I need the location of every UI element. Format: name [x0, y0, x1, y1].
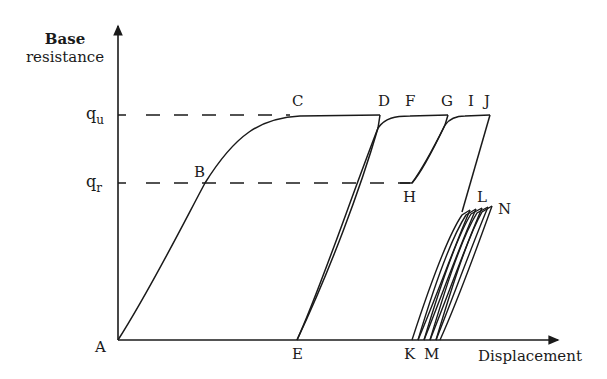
- curve-G-to-H: [400, 115, 448, 183]
- point-A-label: A: [94, 338, 106, 356]
- cyclic-loops: [412, 206, 492, 340]
- curve-D-to-E: [297, 115, 380, 340]
- point-L-label: L: [477, 188, 487, 206]
- diagram-canvas: Base resistance Displacement qu qr A B C…: [0, 0, 607, 379]
- diagram-svg: Base resistance Displacement qu qr A B C…: [0, 0, 607, 379]
- point-K-label: K: [404, 345, 416, 363]
- point-F-label: F: [405, 92, 415, 110]
- point-E-label: E: [292, 345, 303, 363]
- curve-H-to-I: [412, 115, 490, 183]
- point-H-label: H: [403, 188, 416, 206]
- point-C-label: C: [292, 92, 303, 110]
- qr-label: qr: [86, 172, 102, 195]
- point-J-label: J: [482, 92, 490, 110]
- point-N-label: N: [498, 200, 511, 218]
- point-G-label: G: [441, 92, 453, 110]
- x-axis-label: Displacement: [478, 347, 582, 365]
- qu-label: qu: [86, 104, 104, 127]
- point-D-label: D: [378, 92, 390, 110]
- point-M-label: M: [424, 345, 439, 363]
- y-axis-label-line1: Base: [45, 30, 85, 48]
- point-I-label: I: [468, 92, 474, 110]
- point-B-label: B: [194, 163, 205, 181]
- y-axis-label-line2: resistance: [26, 48, 104, 66]
